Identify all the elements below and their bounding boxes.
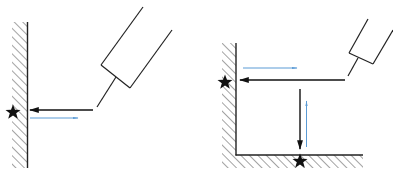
panel-corner — [218, 19, 393, 168]
wall-hatching — [222, 43, 236, 168]
laser-device-icon — [97, 7, 172, 107]
laser-device-icon — [348, 19, 393, 76]
diagram-canvas — [0, 0, 393, 184]
panel-single-wall — [6, 7, 173, 168]
wall-hatching — [12, 22, 27, 168]
